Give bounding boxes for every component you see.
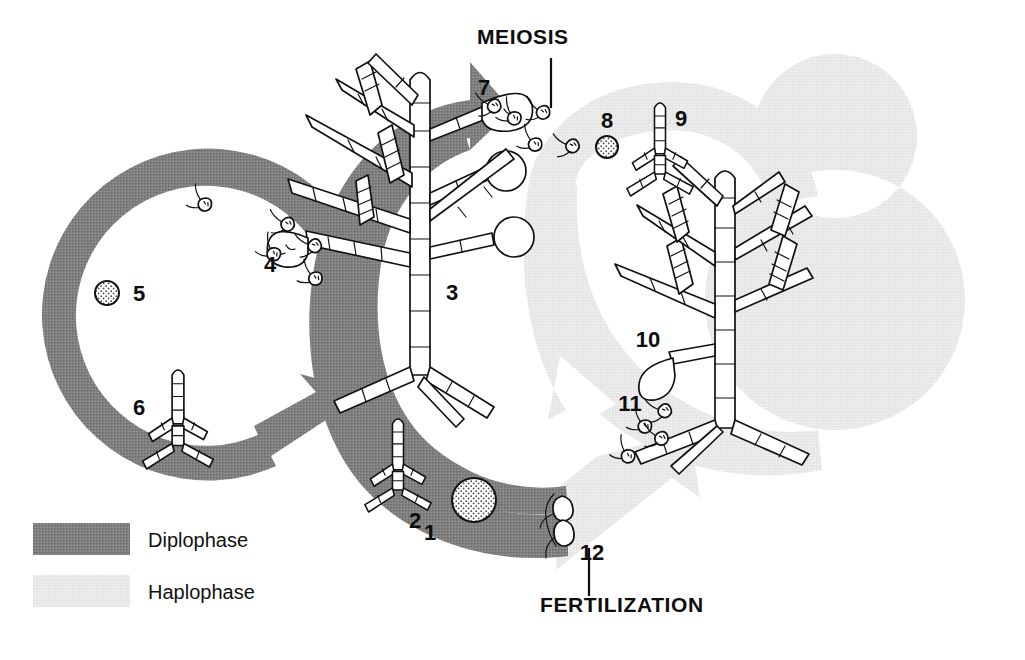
stage-number-12: 12 [580, 540, 604, 565]
stage-number-4: 4 [264, 252, 277, 277]
legend-item-haplophase: Haplophase [33, 575, 255, 607]
phase-legend: Diplophase Haplophase [33, 523, 255, 607]
sporophyte-branch-top-left [336, 61, 414, 137]
stage-number-9: 9 [675, 106, 687, 131]
stage-number-3: 3 [446, 280, 458, 305]
stage-number-10: 10 [636, 327, 660, 352]
stage-number-1: 1 [424, 520, 436, 545]
gametophyte-main-axis [715, 171, 735, 428]
legend-swatch-diplophase [33, 523, 130, 555]
sporophyte-branch-mid-right [430, 217, 534, 259]
stage-number-11: 11 [618, 391, 641, 416]
sporophyte-main-axis [410, 73, 430, 376]
meiosis-label: MEIOSIS [477, 25, 569, 48]
settled-spore-stage-5 [95, 281, 119, 305]
legend-item-diplophase: Diplophase [33, 523, 248, 555]
legend-label-haplophase: Haplophase [148, 581, 255, 603]
stage-number-5: 5 [133, 281, 145, 306]
legend-swatch-haplophase [33, 575, 130, 607]
diagram-canvas: MEIOSIS FERTILIZATION 1 2 3 4 5 6 7 8 9 … [0, 0, 1025, 660]
settled-spore-stage-8 [596, 136, 618, 158]
stage-number-8: 8 [601, 108, 613, 133]
stage-number-2: 2 [409, 508, 421, 533]
haplophase-band-group [524, 54, 965, 570]
life-cycle-diagram: MEIOSIS FERTILIZATION 1 2 3 4 5 6 7 8 9 … [0, 0, 1025, 660]
stage-number-6: 6 [133, 395, 145, 420]
zygote-stage-1 [452, 478, 496, 522]
fertilization-label: FERTILIZATION [540, 593, 704, 616]
stage-number-7: 7 [478, 75, 490, 100]
legend-label-diplophase: Diplophase [148, 529, 248, 551]
